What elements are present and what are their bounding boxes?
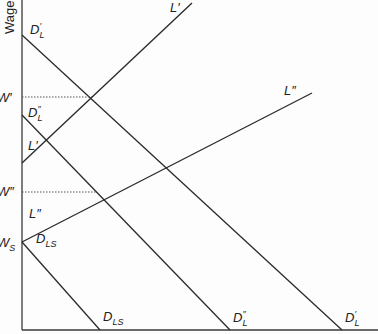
demand-curve-d-l-prime	[22, 35, 342, 330]
d-l-prime-label-bottom: DL′	[345, 310, 356, 328]
d-l-double-prime-label-bottom: DL″	[233, 310, 246, 328]
l-double-prime-label-left: L″	[29, 207, 41, 220]
d-base: D	[233, 310, 242, 325]
d-base: D	[30, 22, 39, 37]
w-s-sub: S	[9, 243, 15, 253]
y-axis-title: Wage	[2, 1, 17, 34]
supply-curve-l-prime	[22, 3, 192, 163]
d-sub: L	[39, 30, 44, 40]
w-s-label: WS	[0, 236, 15, 253]
d-sub: LS	[112, 317, 123, 327]
d-l-double-prime-label-top: DL″	[28, 105, 41, 123]
demand-curve-d-l-double-prime	[22, 115, 230, 330]
d-base: D	[103, 309, 112, 324]
l-prime-label-left: L′	[28, 139, 38, 152]
d-base: D	[36, 231, 45, 246]
d-sub: LS	[45, 239, 56, 249]
w-prime-label: W′	[0, 91, 12, 104]
l-prime-label-top: L′	[170, 1, 180, 14]
d-base: D	[345, 310, 354, 325]
demand-curve-d-ls	[22, 242, 100, 330]
d-ls-label-bottom: DLS	[103, 310, 123, 327]
supply-curve-l-double-prime	[22, 93, 312, 242]
diagram-canvas	[0, 0, 378, 334]
d-l-prime-label-top: DL′	[30, 22, 41, 40]
d-mark: ′	[354, 309, 356, 319]
d-mark: ′	[39, 21, 41, 31]
d-mark: ″	[242, 309, 245, 319]
d-ls-label-top: DLS	[36, 232, 56, 249]
l-double-prime-label-right: L″	[284, 84, 296, 97]
w-s-base: W	[0, 235, 9, 250]
d-sub: L	[354, 318, 359, 328]
d-base: D	[28, 105, 37, 120]
d-mark: ″	[37, 104, 40, 114]
d-sub: L	[242, 318, 247, 328]
d-sub: L	[37, 113, 42, 123]
w-double-prime-label: W″	[0, 185, 14, 198]
